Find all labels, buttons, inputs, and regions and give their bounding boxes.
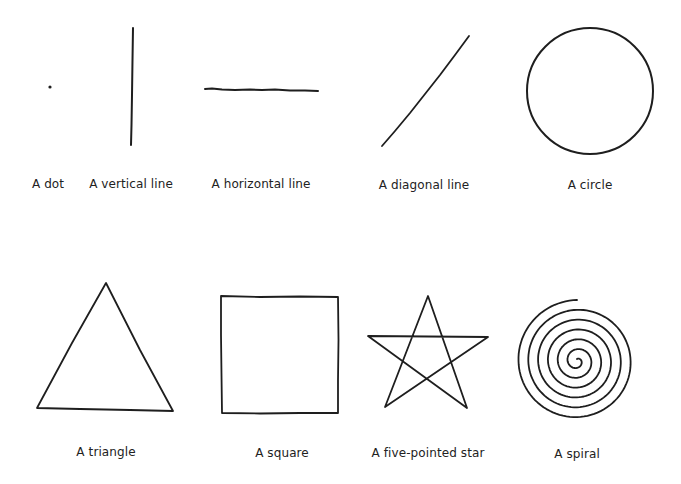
label-dot: A dot: [32, 177, 64, 191]
label-triangle: A triangle: [76, 445, 135, 459]
five-pointed-star-shape: [368, 296, 488, 408]
label-square: A square: [255, 446, 309, 460]
label-diagonal-line: A diagonal line: [379, 178, 470, 192]
triangle-shape: [37, 283, 173, 411]
label-horizontal-line: A horizontal line: [211, 177, 310, 191]
label-vertical-line: A vertical line: [89, 177, 173, 191]
label-five-pointed-star: A five-pointed star: [372, 446, 485, 460]
square-shape: [221, 296, 339, 414]
dot-shape: [48, 85, 51, 88]
label-spiral: A spiral: [554, 447, 600, 461]
shapes-canvas: [0, 0, 681, 484]
circle-shape: [527, 28, 653, 154]
label-circle: A circle: [568, 178, 613, 192]
horizontal-line-shape: [205, 89, 318, 92]
diagonal-line-shape: [382, 36, 469, 146]
vertical-line-shape: [131, 28, 133, 145]
spiral-shape: [519, 300, 631, 417]
